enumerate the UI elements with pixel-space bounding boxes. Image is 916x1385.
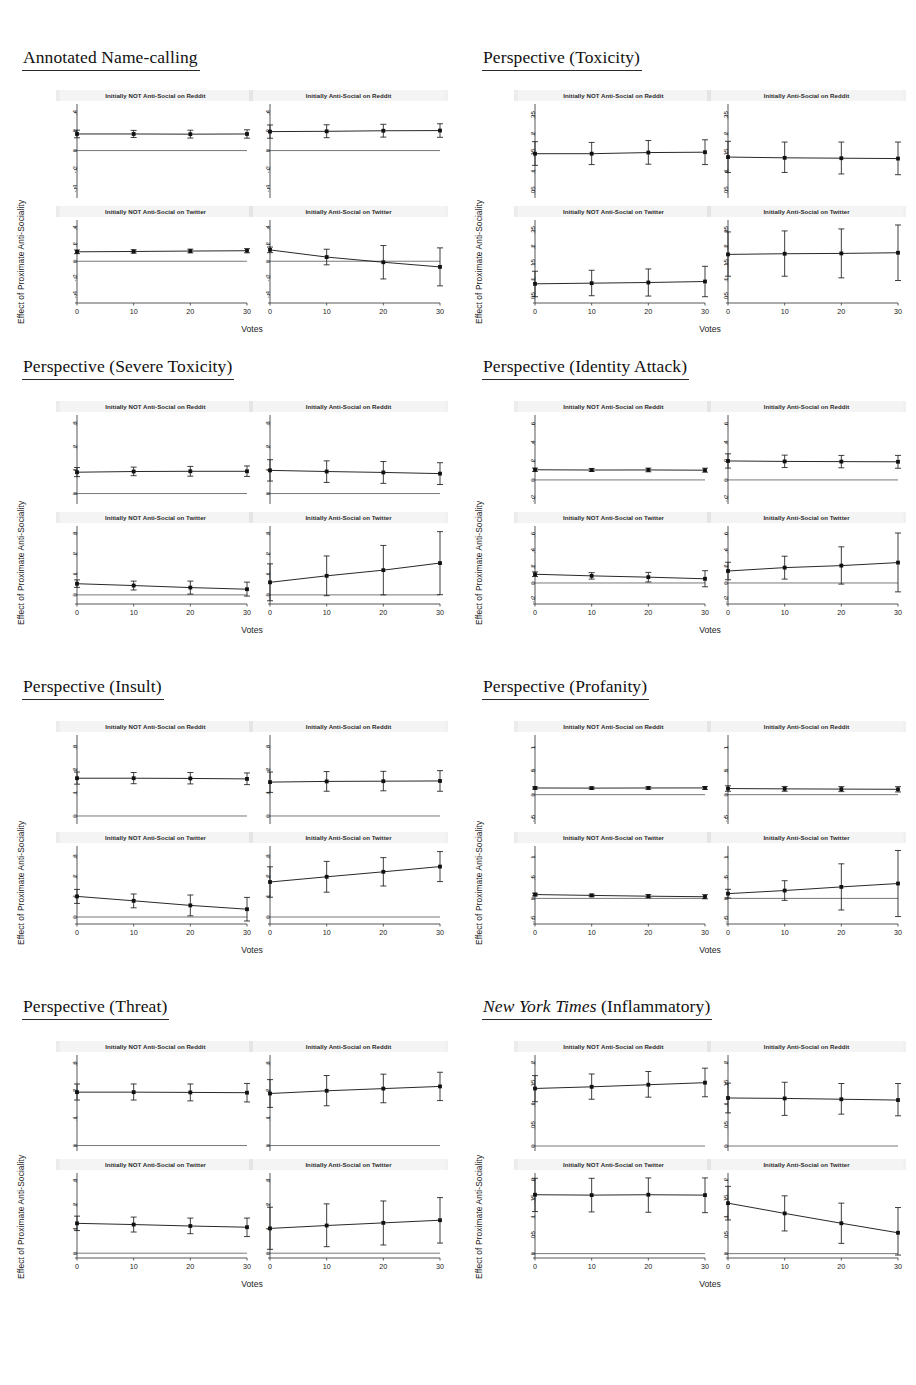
subplot-title: Initially Anti-Social on Reddit — [253, 721, 444, 732]
plot-area: Effect of Proximate Anti-SocialityInitia… — [38, 90, 444, 338]
series-line — [728, 461, 898, 462]
chart-panel: Annotated Name-callingEffect of Proximat… — [0, 0, 458, 345]
data-point-marker — [245, 249, 249, 253]
subplot-title: Initially NOT Anti-Social on Reddit — [60, 401, 251, 412]
y-tick-label: .15 — [529, 258, 536, 267]
data-point-marker — [783, 1211, 787, 1215]
data-point-marker — [245, 777, 249, 781]
data-point-marker — [726, 459, 730, 463]
y-axis-label: Effect of Proximate Anti-Sociality — [16, 821, 26, 945]
subplot-cell: Initially Anti-Social on Twitter.25.2.15… — [711, 206, 902, 318]
data-point-marker — [783, 787, 787, 791]
x-tick-label: 0 — [268, 608, 272, 617]
y-tick-label: .3 — [71, 1061, 78, 1067]
x-tick-label: 0 — [726, 928, 730, 937]
subplot-axes: 1.50-.5 — [518, 732, 709, 828]
data-point-marker — [533, 1193, 537, 1197]
data-point-marker — [646, 575, 650, 579]
data-point-marker — [381, 779, 385, 783]
data-point-marker — [438, 779, 442, 783]
data-point-marker — [703, 786, 707, 790]
y-tick-label: -.4 — [71, 290, 78, 298]
subplot-title: Initially Anti-Social on Reddit — [711, 401, 902, 412]
y-tick-label: .2 — [529, 1060, 536, 1066]
x-tick-label: 20 — [837, 608, 845, 617]
subplot-cell: Initially Anti-Social on Reddit.3.2.10 — [253, 721, 444, 828]
data-point-marker — [438, 1085, 442, 1089]
subplot-cell: Initially NOT Anti-Social on Twitter.25.… — [518, 206, 709, 318]
data-point-marker — [188, 249, 192, 253]
x-axis-label: Votes — [60, 324, 444, 334]
subplot-svg: .3.2.100102030 — [253, 1170, 444, 1273]
x-tick-label: 0 — [533, 1262, 537, 1271]
data-point-marker — [839, 885, 843, 889]
data-point-marker — [896, 460, 900, 464]
data-point-marker — [245, 1091, 249, 1095]
y-tick-label: .3 — [71, 744, 78, 750]
subplot-svg: .3.2.100102030 — [253, 843, 444, 939]
y-tick-label: 0 — [722, 1144, 729, 1148]
series-line — [77, 471, 247, 472]
subplot-axes: .2.15.1.0500102030 — [711, 1170, 902, 1273]
subplot-axes: .4.20-.2-.40102030 — [60, 217, 251, 318]
data-point-marker — [132, 132, 136, 136]
y-tick-label: 0 — [529, 1144, 536, 1148]
subplot-title: Initially NOT Anti-Social on Twitter — [518, 512, 709, 523]
y-tick-label: .4 — [264, 225, 271, 231]
x-axis-label: Votes — [518, 324, 902, 334]
x-tick-label: 20 — [186, 307, 194, 316]
subplot-title: Initially Anti-Social on Twitter — [253, 206, 444, 217]
data-point-marker — [533, 282, 537, 286]
subplot-svg: .3.2.100102030 — [60, 843, 251, 939]
subplot-title: Initially Anti-Social on Twitter — [711, 832, 902, 843]
data-point-marker — [188, 132, 192, 136]
data-point-marker — [533, 468, 537, 472]
data-point-marker — [438, 472, 442, 476]
x-tick-label: 20 — [644, 307, 652, 316]
series-line — [270, 470, 440, 473]
y-tick-label: .2 — [722, 1060, 729, 1066]
x-tick-label: 0 — [726, 1262, 730, 1271]
data-point-marker — [839, 787, 843, 791]
data-point-marker — [381, 568, 385, 572]
x-tick-label: 20 — [837, 307, 845, 316]
chart-panel: Perspective (Identity Attack)Effect of P… — [458, 345, 916, 665]
x-tick-label: 30 — [701, 307, 709, 316]
x-tick-label: 10 — [781, 928, 789, 937]
data-point-marker — [188, 777, 192, 781]
x-tick-label: 30 — [894, 307, 902, 316]
series-line — [728, 253, 898, 255]
data-point-marker — [703, 468, 707, 472]
subplot-title: Initially Anti-Social on Reddit — [253, 1041, 444, 1052]
subplot-svg: .6.4.20-.20102030 — [518, 523, 709, 619]
y-tick-label: -.2 — [529, 494, 536, 502]
subplot-cell: Initially NOT Anti-Social on Reddit.25.2… — [518, 90, 709, 202]
subplot-grid: Initially NOT Anti-Social on Reddit.3.2.… — [60, 1041, 444, 1273]
data-point-marker — [726, 253, 730, 257]
y-tick-label: 0 — [722, 581, 729, 585]
series-line — [270, 250, 440, 267]
data-point-marker — [839, 1097, 843, 1101]
y-tick-label: .05 — [529, 1230, 536, 1239]
y-tick-label: .4 — [71, 225, 78, 231]
data-point-marker — [646, 281, 650, 285]
subplot-axes: .3.2.100102030 — [60, 1170, 251, 1273]
y-tick-label: 1 — [529, 855, 536, 859]
y-tick-label: .05 — [722, 292, 729, 301]
data-point-marker — [75, 1221, 79, 1225]
data-point-marker — [896, 1098, 900, 1102]
x-tick-label: 20 — [186, 1262, 194, 1271]
x-tick-label: 0 — [75, 928, 79, 937]
plot-area: Effect of Proximate Anti-SocialityInitia… — [38, 721, 444, 959]
y-axis-label: Effect of Proximate Anti-Sociality — [474, 821, 484, 945]
y-tick-label: .2 — [71, 444, 78, 450]
subplot-svg: 1.50-.5 — [518, 732, 709, 828]
subplot-svg: .6.4.20-.20102030 — [711, 523, 902, 619]
series-line — [270, 131, 440, 132]
y-tick-label: .2 — [71, 551, 78, 557]
subplot-svg: .4.20-.2-.40102030 — [60, 217, 251, 318]
subplot-cell: Initially Anti-Social on Reddit1.50-.5 — [711, 721, 902, 828]
subplot-title: Initially Anti-Social on Twitter — [711, 1159, 902, 1170]
data-point-marker — [132, 470, 136, 474]
subplot-svg: .3.2.100102030 — [60, 1170, 251, 1273]
